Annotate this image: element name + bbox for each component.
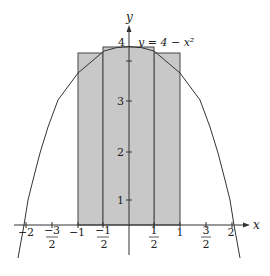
x-tick-label: 1 bbox=[177, 226, 184, 239]
x-tick-label: −1 bbox=[69, 226, 85, 239]
x-tick-labels: −2 −3 2 −1 −1 2 1 2 1 3 2 2 bbox=[18, 224, 235, 251]
rect-left bbox=[78, 53, 103, 225]
x-axis-arrow-icon bbox=[243, 223, 250, 228]
x-tick-label: 2 bbox=[228, 226, 235, 239]
y-axis-arrow-icon bbox=[127, 25, 132, 32]
function-label: y = 4 − x² bbox=[137, 36, 194, 49]
y-tick-label: 3 bbox=[117, 95, 124, 108]
y-tick-label: 4 bbox=[118, 36, 125, 49]
x-axis-label: x bbox=[253, 218, 260, 232]
x-tick-label: −3 bbox=[44, 224, 60, 237]
x-tick-label: 2 bbox=[151, 238, 158, 251]
chart-svg: −2 −3 2 −1 −1 2 1 2 1 3 2 2 1 2 3 4 x y … bbox=[0, 0, 270, 276]
y-axis-label: y bbox=[125, 10, 133, 24]
x-tick-label: 3 bbox=[203, 224, 210, 237]
x-tick-label: 2 bbox=[203, 238, 210, 251]
riemann-sum-figure: −2 −3 2 −1 −1 2 1 2 1 3 2 2 1 2 3 4 x y … bbox=[0, 0, 270, 276]
rect-right bbox=[154, 53, 180, 225]
x-tick-label: −2 bbox=[18, 226, 34, 239]
x-tick-label: 1 bbox=[151, 224, 158, 237]
x-tick-label: 2 bbox=[101, 238, 108, 251]
y-tick-label: 2 bbox=[117, 146, 124, 159]
x-tick-label: −1 bbox=[95, 224, 111, 237]
y-tick-label: 1 bbox=[117, 194, 124, 207]
x-tick-label: 2 bbox=[49, 238, 56, 251]
